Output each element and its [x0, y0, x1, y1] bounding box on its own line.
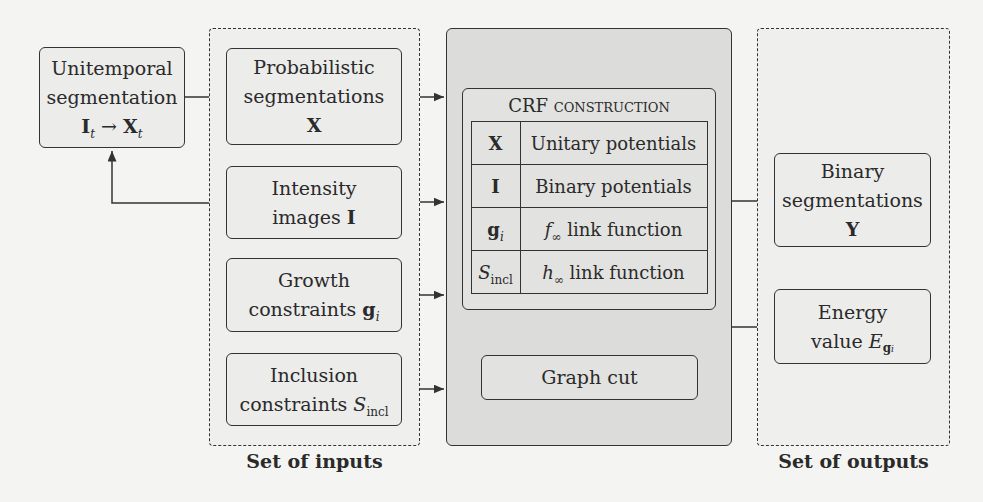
row-symbol: X — [471, 122, 520, 165]
node-line2: images I — [272, 203, 356, 232]
unitemporal-formula: It → Xt — [81, 112, 142, 141]
crf-construction-node: CRF construction X Unitary potentials I … — [462, 88, 716, 310]
row-desc: f∞ link function — [520, 208, 707, 251]
table-row: Sincl h∞ link function — [471, 251, 707, 294]
node-line1: Binary — [821, 157, 884, 186]
row-symbol: I — [471, 165, 520, 208]
right-arrow-symbol: → — [101, 115, 117, 137]
probabilistic-segmentations-node: Probabilistic segmentations X — [226, 48, 402, 145]
unitemporal-line2: segmentation — [46, 83, 177, 112]
node-line1: Growth — [278, 266, 350, 295]
unitemporal-line1: Unitemporal — [51, 54, 172, 83]
row-symbol: gi — [471, 208, 520, 251]
inclusion-constraints-node: Inclusion constraints Sincl — [226, 353, 402, 426]
node-line1: Energy — [818, 298, 887, 327]
outputs-caption: Set of outputs — [757, 450, 950, 472]
node-symbol: E — [869, 330, 883, 352]
growth-constraints-node: Growth constraints gi — [226, 258, 402, 332]
row-desc: Binary potentials — [520, 165, 707, 208]
node-symbol: I — [347, 206, 356, 228]
table-row: gi f∞ link function — [471, 208, 707, 251]
node-line2: constraints Sincl — [239, 390, 388, 419]
node-symbol: g — [362, 298, 375, 320]
table-row: X Unitary potentials — [471, 122, 707, 165]
graph-cut-label: Graph cut — [541, 363, 638, 392]
node-symbol: S — [353, 393, 366, 415]
node-line2: segmentations — [244, 82, 385, 111]
binary-segmentations-node: Binary segmentations Y — [774, 153, 931, 247]
node-line1: Inclusion — [270, 361, 358, 390]
crf-construction-title: CRF construction — [463, 95, 715, 116]
intensity-images-node: Intensity images I — [226, 166, 402, 239]
table-row: I Binary potentials — [471, 165, 707, 208]
unitemporal-segmentation-node: Unitemporal segmentation It → Xt — [39, 47, 185, 148]
row-symbol: Sincl — [471, 251, 520, 294]
inputs-caption: Set of inputs — [209, 450, 420, 472]
crf-potentials-table: X Unitary potentials I Binary potentials… — [471, 121, 708, 294]
node-symbol: X — [307, 111, 322, 140]
energy-value-node: Energy value Egi — [774, 289, 931, 364]
node-line1: Intensity — [271, 174, 356, 203]
node-line2: segmentations — [782, 186, 923, 215]
node-line1: Probabilistic — [253, 53, 374, 82]
row-desc: Unitary potentials — [520, 122, 707, 165]
graph-cut-node: Graph cut — [481, 355, 698, 400]
node-symbol: Y — [846, 215, 860, 244]
row-desc: h∞ link function — [520, 251, 707, 294]
node-line2: value Egi — [811, 327, 894, 356]
node-line2: constraints gi — [249, 295, 380, 324]
